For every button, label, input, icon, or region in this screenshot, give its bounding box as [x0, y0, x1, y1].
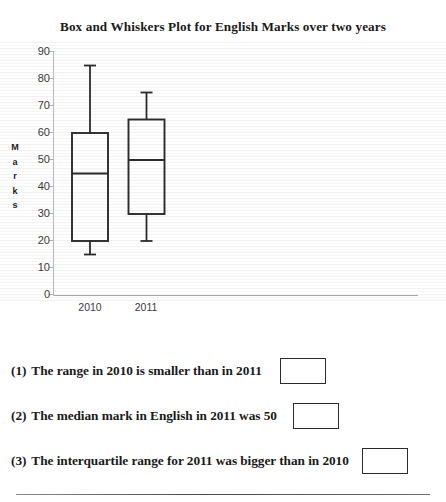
y-axis-title-letter: s — [8, 198, 22, 213]
statement-row-2: (2) The median mark in English in 2011 w… — [0, 393, 446, 438]
box-whisker-2010 — [72, 66, 108, 255]
chart-title: Box and Whiskers Plot for English Marks … — [0, 19, 446, 35]
y-tick-label-0: 0 — [24, 288, 50, 300]
y-tick-label-10: 10 — [24, 261, 50, 273]
box-whisker-2011 — [129, 93, 165, 242]
answer-box-1[interactable] — [280, 358, 326, 384]
y-axis-title-letter: k — [8, 184, 22, 199]
box-rect-2010 — [72, 133, 108, 241]
x-tick-label-2010: 2010 — [65, 301, 115, 313]
statement-text-2: The median mark in English in 2011 was 5… — [31, 408, 276, 424]
statement-row-1: (1) The range in 2010 is smaller than in… — [0, 348, 446, 393]
statement-row-3: (3) The interquartile range for 2011 was… — [0, 438, 446, 483]
statement-text-1: The range in 2010 is smaller than in 201… — [31, 363, 261, 379]
bottom-divider — [16, 494, 430, 495]
y-axis-title-letter: a — [8, 155, 22, 170]
y-axis-title: M a r k s — [8, 140, 22, 213]
statement-number-1: (1) — [11, 363, 26, 379]
x-tick-label-2011: 2011 — [121, 301, 171, 313]
y-axis-ticks — [49, 52, 54, 295]
statements-list: (1) The range in 2010 is smaller than in… — [0, 348, 446, 483]
y-tick-label-80: 80 — [24, 72, 50, 84]
answer-box-3[interactable] — [362, 448, 408, 474]
y-tick-label-20: 20 — [24, 234, 50, 246]
y-axis-title-letter: M — [8, 140, 22, 155]
y-tick-label-70: 70 — [24, 99, 50, 111]
statement-number-3: (3) — [11, 453, 26, 469]
box-rect-2011 — [129, 120, 165, 215]
y-tick-label-30: 30 — [24, 207, 50, 219]
answer-box-2[interactable] — [293, 403, 339, 429]
statement-text-3: The interquartile range for 2011 was big… — [31, 453, 348, 469]
y-tick-label-40: 40 — [24, 180, 50, 192]
y-tick-label-90: 90 — [24, 45, 50, 57]
y-tick-label-50: 50 — [24, 153, 50, 165]
box-plot-area — [0, 0, 446, 330]
box-plot-svg — [0, 0, 446, 330]
statement-number-2: (2) — [11, 408, 26, 424]
y-axis-title-letter: r — [8, 169, 22, 184]
y-tick-label-60: 60 — [24, 126, 50, 138]
